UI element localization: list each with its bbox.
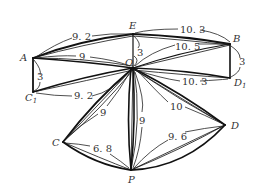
length-AC1: 3	[37, 71, 43, 82]
length-DP: 9. 6	[168, 131, 187, 142]
length-OP: 9	[139, 115, 145, 126]
label-P: P	[127, 174, 135, 185]
label-D1: D1	[233, 77, 247, 90]
label-O: O	[125, 57, 133, 68]
label-A: A	[19, 52, 27, 63]
length-AE: 9. 2	[72, 31, 91, 42]
length-OD1: 10. 3	[182, 76, 207, 87]
length-BD1: 3	[239, 56, 245, 67]
length-OC: 9	[100, 107, 106, 118]
length-EB: 10. 3	[180, 24, 205, 35]
label-D: D	[230, 120, 239, 131]
length-C1O: 9. 2	[74, 90, 93, 101]
label-C: C	[52, 137, 60, 148]
label-C1: C1	[25, 92, 37, 105]
label-E: E	[128, 20, 137, 31]
geometry-diagram: E B A O C1 D1 C D P 9. 2 10. 3 9 10. 5 3…	[0, 0, 269, 194]
length-AO: 9	[79, 51, 85, 62]
label-B: B	[232, 33, 240, 44]
length-OB: 10. 5	[175, 41, 200, 52]
length-EO: 3	[137, 47, 143, 58]
length-OD: 10	[170, 101, 183, 112]
length-CP: 6. 8	[93, 143, 112, 154]
